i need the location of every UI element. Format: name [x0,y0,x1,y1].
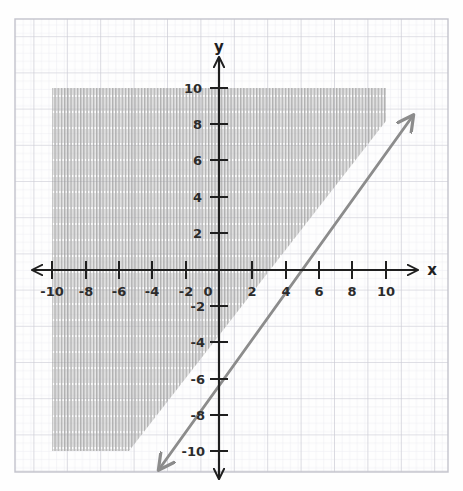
y-tick-label: -8 [191,408,205,423]
x-axis-label: x [427,261,437,279]
y-tick-label: 6 [193,153,202,168]
y-tick-label: -2 [191,299,205,314]
y-tick-label: -4 [191,335,205,350]
y-tick-label: -6 [191,372,205,387]
x-tick-label: 4 [281,284,290,299]
y-tick-label: 2 [193,226,202,241]
x-tick-label: 2 [247,284,256,299]
x-tick-label: -10 [40,284,64,299]
y-tick-label: 10 [184,81,202,96]
x-tick-label: 8 [347,284,356,299]
y-tick-label: 8 [193,117,202,132]
x-tick-label: -8 [79,284,93,299]
graph-figure: -10 -8 -6 -4 -2 2 4 6 8 10 0 10 8 6 4 2 … [0,0,463,491]
y-tick-label: 4 [193,190,202,205]
origin-label: 0 [203,284,212,299]
x-tick-label: 6 [314,284,323,299]
y-axis-label: y [214,38,224,56]
x-tick-label: 10 [377,284,395,299]
x-tick-label: -4 [145,284,159,299]
y-tick-label: -10 [182,444,206,459]
x-tick-label: -2 [179,284,193,299]
x-tick-label: -6 [112,284,126,299]
coordinate-plane-svg: -10 -8 -6 -4 -2 2 4 6 8 10 0 10 8 6 4 2 … [0,0,463,491]
